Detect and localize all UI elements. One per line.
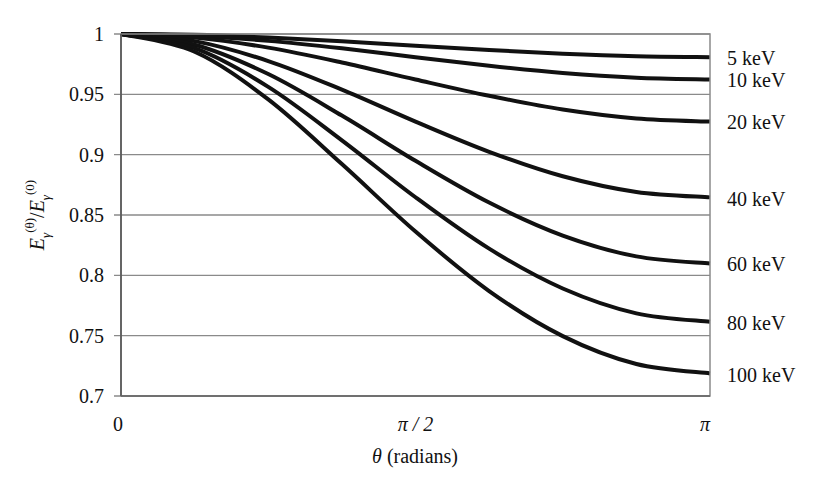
series-label: 60 keV <box>727 253 786 275</box>
y-tick-label: 0.9 <box>79 144 104 166</box>
x-tick-label: 0 <box>113 413 123 435</box>
series-labels: 5 keV10 keV20 keV40 keV60 keV80 keV100 k… <box>727 47 796 386</box>
y-tick-label: 0.8 <box>79 264 104 286</box>
y-tick-label: 1 <box>94 23 104 45</box>
y-tick-label: 0.95 <box>69 83 104 105</box>
y-tick-label: 0.85 <box>69 204 104 226</box>
series-label: 80 keV <box>727 312 786 334</box>
x-axis-title: θ (radians) <box>372 445 458 468</box>
x-tick-label: π / 2 <box>398 413 434 435</box>
x-axis-tick-labels: 0π / 2π <box>113 413 711 435</box>
y-tick-label: 0.7 <box>79 385 104 407</box>
y-axis-tick-labels: 10.950.90.850.80.750.7 <box>69 23 104 407</box>
svg-text:Eγ(θ)/Eγ(0): Eγ(θ)/Eγ(0) <box>22 180 53 251</box>
series-label: 100 keV <box>727 364 796 386</box>
series-line-100-kev <box>121 34 710 373</box>
chart: 10.950.90.850.80.750.7 0π / 2π 5 keV10 k… <box>0 0 832 490</box>
x-tick-label: π <box>700 413 711 435</box>
series-label: 20 keV <box>727 111 786 133</box>
series-label: 40 keV <box>727 188 786 210</box>
gridlines <box>114 34 710 396</box>
data-series <box>121 34 710 373</box>
series-label: 10 keV <box>727 69 786 91</box>
y-tick-label: 0.75 <box>69 325 104 347</box>
series-label: 5 keV <box>727 47 776 69</box>
y-axis-title: Eγ(θ)/Eγ(0) <box>22 180 53 251</box>
